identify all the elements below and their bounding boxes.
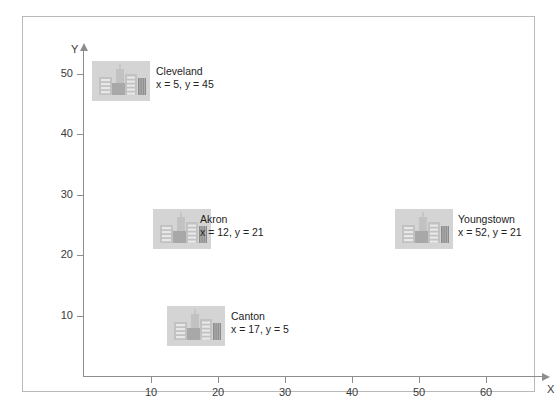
y-axis-tick-label: 10 <box>43 309 73 321</box>
city-coordinates: x = 12, y = 21 <box>200 226 264 239</box>
y-axis-arrow-icon <box>80 43 88 51</box>
city-coordinates: x = 5, y = 45 <box>156 78 214 91</box>
x-axis-tick <box>486 376 487 383</box>
city-label: Youngstownx = 52, y = 21 <box>458 213 522 239</box>
city-coordinates: x = 17, y = 5 <box>231 323 289 336</box>
y-axis-tick <box>77 316 84 317</box>
city-name: Akron <box>200 213 264 226</box>
y-axis-tick <box>77 134 84 135</box>
x-axis-tick-label: 10 <box>136 386 166 398</box>
city-skyline-icon <box>395 209 453 249</box>
city-label: Akronx = 12, y = 21 <box>200 213 264 239</box>
city-coordinates: x = 52, y = 21 <box>458 226 522 239</box>
city-label: Cantonx = 17, y = 5 <box>231 310 289 336</box>
screenshot-root: Y X 1020304050 102030405060 Clevelandx = <box>0 0 557 409</box>
x-axis-tick <box>285 376 286 383</box>
x-axis-tick <box>151 376 152 383</box>
y-axis-title: Y <box>71 43 79 55</box>
x-axis-line <box>84 376 544 377</box>
city-name: Canton <box>231 310 289 323</box>
y-axis-tick <box>77 74 84 75</box>
x-axis-tick <box>352 376 353 383</box>
city-name: Cleveland <box>156 65 214 78</box>
x-axis-tick-label: 30 <box>270 386 300 398</box>
city-skyline-icon <box>92 61 150 101</box>
y-axis-tick-label: 50 <box>43 67 73 79</box>
city-skyline-icon <box>167 306 225 346</box>
x-axis-arrow-icon <box>542 373 550 381</box>
y-axis-tick-label: 20 <box>43 248 73 260</box>
y-axis-tick-label: 30 <box>43 188 73 200</box>
y-axis-tick-label: 40 <box>43 127 73 139</box>
y-axis-line <box>83 50 84 377</box>
city-name: Youngstown <box>458 213 522 226</box>
x-axis-tick-label: 50 <box>404 386 434 398</box>
figure-frame: Y X 1020304050 102030405060 Clevelandx = <box>22 16 535 392</box>
x-axis-tick-label: 40 <box>337 386 367 398</box>
x-axis-tick-label: 20 <box>203 386 233 398</box>
x-axis-tick <box>419 376 420 383</box>
y-axis-tick <box>77 195 84 196</box>
y-axis-tick <box>77 255 84 256</box>
x-axis-title: X <box>547 383 555 395</box>
city-label: Clevelandx = 5, y = 45 <box>156 65 214 91</box>
x-axis-tick <box>218 376 219 383</box>
x-axis-tick-label: 60 <box>471 386 501 398</box>
